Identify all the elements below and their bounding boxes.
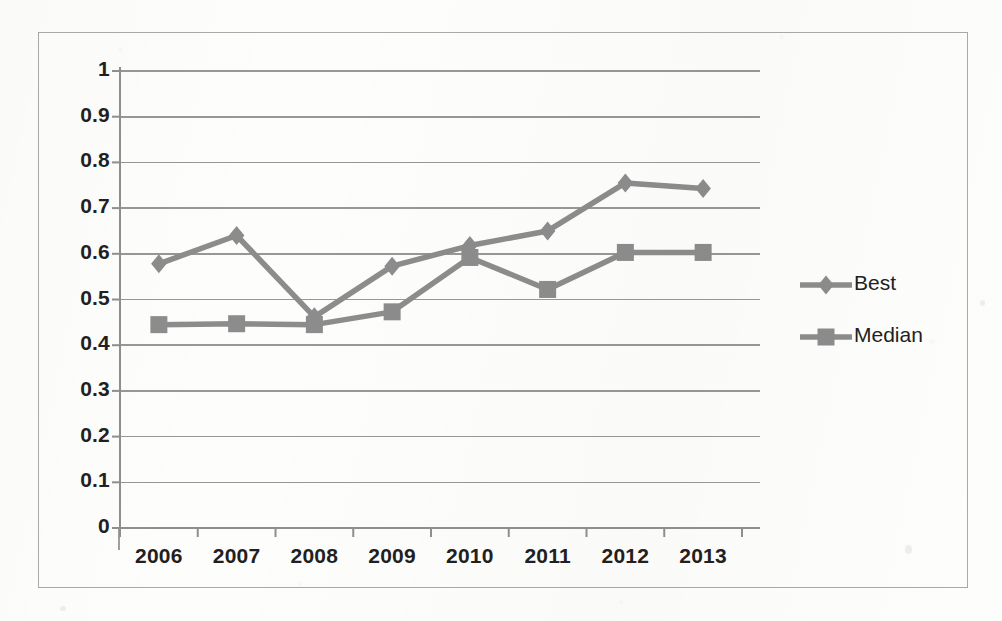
x-axis-tick-label: 2010 bbox=[425, 544, 515, 568]
diamond-marker bbox=[540, 221, 556, 240]
x-axis-tick-label: 2013 bbox=[658, 544, 748, 568]
x-axis-tick-label: 2006 bbox=[114, 544, 204, 568]
square-marker bbox=[306, 316, 323, 333]
legend-label-median[interactable]: Median bbox=[854, 323, 923, 347]
y-axis-tick-label: 0.6 bbox=[40, 240, 110, 264]
gridlines-group bbox=[120, 71, 760, 528]
legend-label-best[interactable]: Best bbox=[854, 271, 896, 295]
y-axis-tick-label: 0.2 bbox=[40, 423, 110, 447]
x-axis-tick-label: 2008 bbox=[269, 544, 359, 568]
x-axis-tick-label: 2011 bbox=[503, 544, 593, 568]
square-marker bbox=[539, 281, 556, 298]
square-marker bbox=[228, 315, 245, 332]
line-chart-plot bbox=[0, 0, 1002, 621]
y-axis-tick-label: 0.1 bbox=[40, 468, 110, 492]
square-marker bbox=[461, 249, 478, 266]
y-axis-tick-label: 0.5 bbox=[40, 286, 110, 310]
y-axis-tick-label: 1 bbox=[40, 57, 110, 81]
y-axis-tick-label: 0 bbox=[40, 514, 110, 538]
scan-speck bbox=[60, 606, 66, 611]
x-axis-ticks-group bbox=[120, 528, 742, 537]
square-marker bbox=[384, 303, 401, 320]
scan-speck bbox=[905, 545, 912, 554]
square-marker bbox=[818, 329, 835, 346]
x-axis-tick-label: 2009 bbox=[347, 544, 437, 568]
x-axis-tick-label: 2012 bbox=[580, 544, 670, 568]
y-axis-tick-label: 0.4 bbox=[40, 331, 110, 355]
series-line-median bbox=[159, 252, 703, 324]
legend-markers-group bbox=[800, 276, 852, 346]
y-axis-tick-label: 0.9 bbox=[40, 103, 110, 127]
diamond-marker bbox=[151, 254, 167, 273]
x-axis-tick-label: 2007 bbox=[192, 544, 282, 568]
scan-speck bbox=[980, 300, 985, 306]
y-axis-tick-label: 0.3 bbox=[40, 377, 110, 401]
y-axis-tick-label: 0.8 bbox=[40, 148, 110, 172]
square-marker bbox=[617, 244, 634, 261]
diamond-marker bbox=[695, 179, 711, 198]
y-axis-tick-label: 0.7 bbox=[40, 194, 110, 218]
square-marker bbox=[150, 316, 167, 333]
square-marker bbox=[695, 244, 712, 261]
diamond-marker bbox=[818, 276, 834, 295]
diamond-marker bbox=[618, 173, 634, 192]
axis-lines-group bbox=[112, 67, 760, 550]
